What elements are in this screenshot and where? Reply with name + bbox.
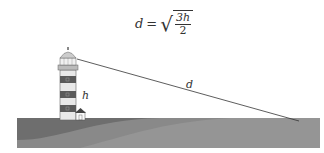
distance-label: d	[186, 78, 193, 91]
height-label: h	[82, 89, 89, 102]
distance-formula: d = √ 3h 2	[135, 10, 193, 37]
keeper-house	[75, 108, 86, 120]
formula-fraction: 3h 2	[173, 10, 193, 37]
formula-denominator: 2	[180, 25, 187, 37]
radical-sign: √	[160, 12, 173, 36]
formula-lhs: d	[135, 16, 143, 31]
lighthouse	[58, 47, 78, 120]
formula-equals: =	[146, 16, 157, 31]
